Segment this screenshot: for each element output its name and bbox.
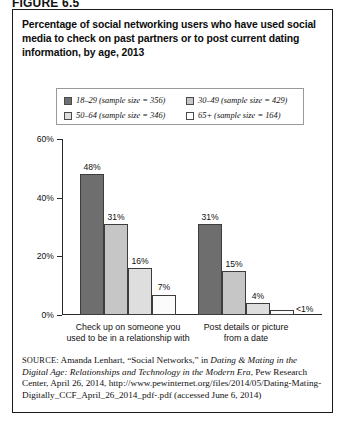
- bar-value-label: 7%: [158, 282, 170, 292]
- bar-50-64[interactable]: [246, 303, 270, 315]
- legend-item-65-plus: 65+ (sample size = 164): [186, 111, 304, 120]
- legend-label: 18–29 (sample size = 356): [76, 96, 165, 105]
- bar-value-label: <1%: [296, 304, 313, 314]
- bar-group-post-details: 31% 15% 4% <1%: [198, 139, 294, 315]
- source-label: SOURCE:: [22, 356, 59, 365]
- chart-plot-area: 60% 40% 20% 0% 48% 31% 16% 7% 31% 15% 4%: [62, 139, 314, 315]
- bar-value-label: 4%: [252, 291, 264, 301]
- bar-65-plus[interactable]: [270, 310, 294, 315]
- bar-18-29[interactable]: [80, 174, 104, 315]
- chart-legend: 18–29 (sample size = 356) 30–49 (sample …: [56, 88, 304, 125]
- y-tick-40: [57, 198, 62, 199]
- bar-group-check-up: 48% 31% 16% 7%: [80, 139, 176, 315]
- bar-30-49[interactable]: [104, 224, 128, 315]
- y-tick-20: [57, 256, 62, 257]
- category-line-1: Post details or picture: [204, 322, 289, 332]
- legend-swatch-icon: [64, 97, 72, 105]
- y-axis-label-60: 60%: [37, 134, 54, 144]
- figure-title: Percentage of social networking users wh…: [22, 18, 322, 61]
- y-tick-0: [57, 315, 62, 316]
- legend-item-50-64: 50–64 (sample size = 346): [64, 111, 186, 120]
- y-tick-60: [57, 139, 62, 140]
- legend-label: 65+ (sample size = 164): [198, 111, 280, 120]
- y-axis-label-0: 0%: [42, 310, 54, 320]
- legend-swatch-icon: [186, 112, 194, 120]
- legend-item-18-29: 18–29 (sample size = 356): [64, 96, 186, 105]
- bar-30-49[interactable]: [222, 271, 246, 315]
- bar-value-label: 15%: [225, 259, 242, 269]
- legend-swatch-icon: [64, 112, 72, 120]
- bar-65-plus[interactable]: [152, 295, 176, 316]
- y-axis-line: [62, 139, 63, 315]
- bar-value-label: 48%: [83, 162, 100, 172]
- legend-item-30-49: 30–49 (sample size = 429): [186, 96, 304, 105]
- bar-18-29[interactable]: [198, 224, 222, 315]
- x-category-label-post-details: Post details or picture from a date: [176, 322, 316, 345]
- bar-value-label: 31%: [107, 212, 124, 222]
- legend-swatch-icon: [186, 97, 194, 105]
- y-axis-label-20: 20%: [37, 251, 54, 261]
- category-line-2: used to be in a relationship with: [66, 333, 189, 343]
- bar-value-label: 31%: [201, 212, 218, 222]
- bar-value-label: 16%: [131, 256, 148, 266]
- source-note: SOURCE: Amanda Lenhart, “Social Networks…: [22, 355, 322, 401]
- legend-label: 50–64 (sample size = 346): [76, 111, 165, 120]
- source-text-part-1: Amanda Lenhart, “Social Networks,” in: [59, 355, 211, 365]
- category-line-1: Check up on someone you: [76, 322, 181, 332]
- bar-50-64[interactable]: [128, 268, 152, 315]
- y-axis-label-40: 40%: [37, 193, 54, 203]
- figure-container: FIGURE 6.5 Percentage of social networki…: [0, 0, 346, 422]
- legend-label: 30–49 (sample size = 429): [198, 96, 287, 105]
- category-line-2: from a date: [224, 333, 269, 343]
